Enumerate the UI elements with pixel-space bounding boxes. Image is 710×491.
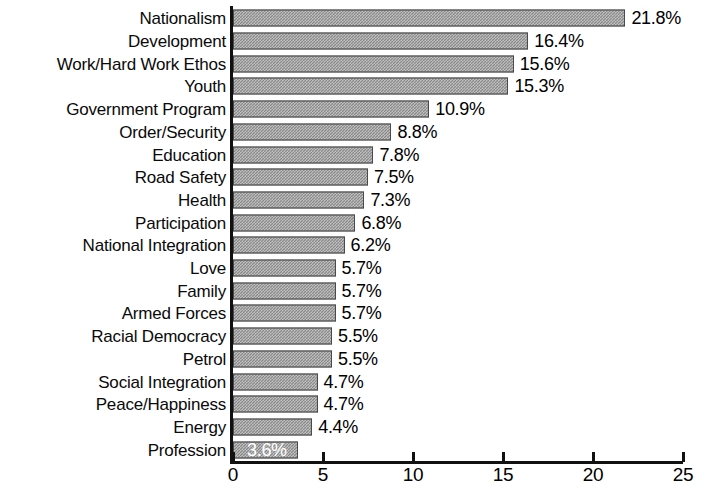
bar-value-label: 3.6% [247,440,287,459]
bar-row: Profession3.6% [0,438,710,461]
x-axis-tick [592,452,595,462]
x-axis-tick-label: 10 [403,464,424,486]
bar [233,101,429,118]
bar [233,123,391,140]
bar-value-label: 5.5% [338,349,378,368]
bar-chart: Nationalism21.8%Development16.4%Work/Har… [0,0,710,491]
x-axis-tick-label: 15 [493,464,514,486]
bar-row: Road Safety7.5% [0,166,710,189]
bar-row: Health7.3% [0,189,710,212]
category-label: Education [152,145,226,164]
bar [233,33,528,50]
bar [233,237,345,254]
bar-row: Youth15.3% [0,75,710,98]
category-label: Love [190,259,226,278]
bar-value-label: 15.6% [520,54,570,73]
x-axis-tick [232,452,235,462]
bar-row: Armed Forces5.7% [0,302,710,325]
bar [233,55,514,72]
bar-row: Energy4.4% [0,416,710,439]
bar [233,214,355,231]
x-axis-tick [682,452,685,462]
bar-row: Peace/Happiness4.7% [0,393,710,416]
bar-row: Social Integration4.7% [0,370,710,393]
bar [233,191,364,208]
bar-row: Order/Security8.8% [0,121,710,144]
bar-value-label: 8.8% [397,122,437,141]
x-axis-tick [322,452,325,462]
bar-value-label: 7.3% [370,190,410,209]
x-axis-tick [412,452,415,462]
category-label: Profession [148,440,226,459]
bar-row: Government Program10.9% [0,98,710,121]
x-axis-tick-label: 20 [583,464,604,486]
bar-value-label: 6.2% [351,236,391,255]
bar [233,78,508,95]
bar-value-label: 4.7% [324,372,364,391]
category-label: Participation [135,213,226,232]
bar [233,305,336,322]
bar-value-label: 5.7% [342,304,382,323]
value-axis-line [230,461,683,464]
bar-value-label: 21.8% [631,9,681,28]
bar-row: Nationalism21.8% [0,7,710,30]
bar-row: Work/Hard Work Ethos15.6% [0,52,710,75]
bar-value-label: 4.4% [318,417,358,436]
category-label: Youth [184,77,226,96]
category-label: Road Safety [135,168,226,187]
category-label: Peace/Happiness [96,395,226,414]
bar-value-label: 15.3% [514,77,564,96]
bar [233,260,336,277]
bar-row: Petrol5.5% [0,348,710,371]
bar-value-label: 7.5% [374,168,414,187]
category-label: Racial Democracy [91,327,226,346]
category-label: Nationalism [139,9,226,28]
bar-row: Family5.7% [0,279,710,302]
bar-row: Racial Democracy5.5% [0,325,710,348]
bar [233,350,332,367]
bar-row: Education7.8% [0,143,710,166]
x-axis-tick [502,452,505,462]
bar-value-label: 4.7% [324,395,364,414]
bar-value-label: 5.5% [338,327,378,346]
category-label: Order/Security [119,122,226,141]
x-axis-tick-label: 25 [673,464,694,486]
bar-row: Development16.4% [0,30,710,53]
category-label: Armed Forces [122,304,226,323]
bar [233,418,312,435]
bar-value-label: 10.9% [435,100,485,119]
bar-row: Love5.7% [0,257,710,280]
bar [233,169,368,186]
category-label: Development [128,32,226,51]
bar-value-label: 5.7% [342,259,382,278]
bar-value-label: 16.4% [534,32,584,51]
bar [233,10,625,27]
bar-row: National Integration6.2% [0,234,710,257]
bar [233,396,318,413]
bar-value-label: 7.8% [379,145,419,164]
category-label: Work/Hard Work Ethos [57,54,226,73]
bar [233,282,336,299]
x-axis-tick-label: 0 [228,464,238,486]
bar-value-label: 5.7% [342,281,382,300]
plot-area: Nationalism21.8%Development16.4%Work/Har… [0,0,710,491]
x-axis-tick-label: 5 [318,464,328,486]
category-label: Family [177,281,226,300]
bar [233,328,332,345]
bar-row: Participation6.8% [0,211,710,234]
bar-value-label: 6.8% [361,213,401,232]
category-label: Energy [173,417,226,436]
category-label: Social Integration [98,372,226,391]
category-label: Petrol [183,349,226,368]
category-label: Government Program [66,100,226,119]
category-label: National Integration [83,236,226,255]
bar [233,146,373,163]
bar [233,373,318,390]
category-label: Health [178,190,226,209]
